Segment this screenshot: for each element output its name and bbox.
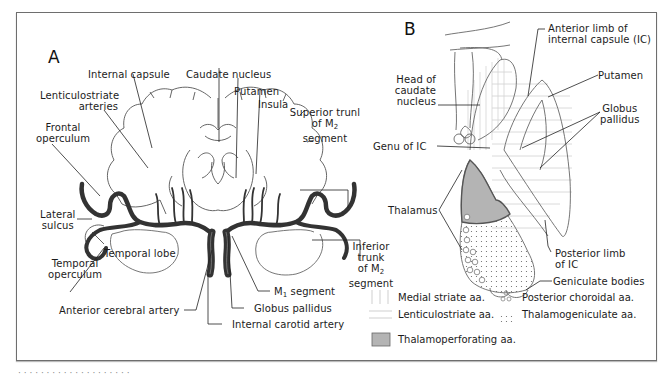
label-insula: Insula xyxy=(258,99,288,110)
label-globus-pallidus: Globus pallidus xyxy=(254,303,332,314)
label-geniculate-bodies: Geniculate bodies xyxy=(553,276,645,287)
label-m1-segment: M1 segment xyxy=(274,286,335,301)
label-temporal-operculum: Temporal operculum xyxy=(48,258,102,280)
thalamoperforating-swatch xyxy=(372,333,390,346)
medial-striate-swatch xyxy=(372,290,388,304)
label-putamen: Putamen xyxy=(234,86,279,97)
legend-medial-striate: Medial striate aa. xyxy=(398,292,485,303)
label-posterior-limb-ic: Posterior limb of IC xyxy=(555,248,625,270)
label-putamen-b: Putamen xyxy=(598,70,643,81)
label-lateral-sulcus: Lateral sulcus xyxy=(40,209,76,231)
label-caudate-nucleus: Caudate nucleus xyxy=(186,69,271,80)
label-temporal-lobe: Temporal lobe xyxy=(104,248,176,259)
label-anterior-cerebral-artery: Anterior cerebral artery xyxy=(59,305,180,316)
label-anterior-limb-ic: Anterior limb of internal capsule (IC) xyxy=(548,23,651,45)
thalamogeniculate-swatch xyxy=(499,313,513,323)
legend-posterior-choroidal: Posterior choroidal aa. xyxy=(522,292,634,303)
legend-thalamoperforating: Thalamoperforating aa. xyxy=(398,334,516,345)
label-globus-pallidus-b: Globus pallidus xyxy=(600,103,640,125)
middle-cerebral-artery-branches xyxy=(82,184,355,274)
label-lenticulostriate-arteries: Lenticulostriate arteries xyxy=(40,90,118,112)
label-internal-carotid-artery: Internal carotid artery xyxy=(232,319,344,330)
figure-caption-truncated: · · · · · · · · · · · · · · · · · · · · xyxy=(18,368,130,375)
lenticulostriate-swatch xyxy=(369,311,392,318)
label-superior-trunk-m2: Superior trunl of M2 segment xyxy=(286,107,364,144)
label-inferior-trunk-m2: Inferior trunk of M2 segment xyxy=(346,241,396,289)
legend-lenticulostriate: Lenticulostriate aa. xyxy=(398,309,494,320)
label-frontal-operculum: Frontal operculum xyxy=(36,122,90,144)
panel-a-letter: A xyxy=(48,47,60,67)
label-genu-of-ic: Genu of IC xyxy=(373,141,427,152)
legend-thalamogeniculate: Thalamogeniculate aa. xyxy=(522,309,636,320)
label-thalamus: Thalamus xyxy=(388,205,438,216)
panel-b-letter: B xyxy=(404,19,416,39)
label-internal-capsule: Internal capsule xyxy=(88,69,170,80)
label-head-of-caudate: Head of caudate nucleus xyxy=(392,74,436,107)
